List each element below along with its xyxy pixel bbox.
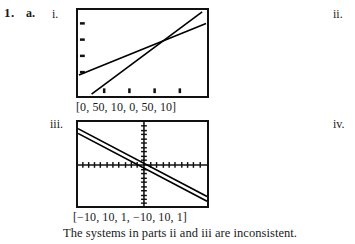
part-letter: a. [26,6,35,21]
graph-i-line-1 [79,23,206,75]
calculator-screen-iii [76,120,209,208]
graph-i-plot [78,10,207,96]
graph-iii-plot [78,122,207,206]
answer-sentence: The systems in parts ii and iii are inco… [63,226,297,241]
label-roman-iv: iv. [333,117,345,132]
graph-i-x-axis-ticks [104,88,180,93]
label-roman-iii: iii. [50,117,63,132]
problem-number: 1. [4,5,15,21]
label-roman-i: i. [52,7,58,22]
graph-i-line-2 [92,12,203,94]
calculator-screen-i [76,8,209,98]
graph-i-y-axis-ticks [80,23,85,72]
label-roman-ii: ii. [333,7,343,22]
caption-window-iii: [−10, 10, 1, −10, 10, 1] [73,210,187,225]
caption-window-i: [0, 50, 10, 0, 50, 10] [76,100,176,115]
